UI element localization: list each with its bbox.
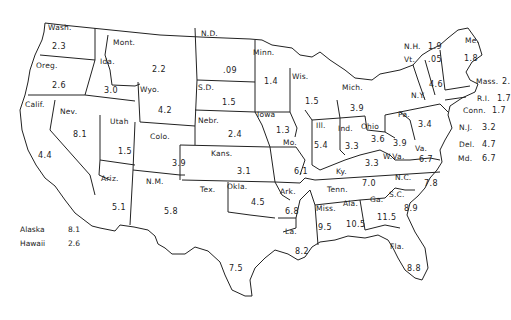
state-label: Tex.	[200, 186, 215, 194]
state-value: 6.8	[285, 208, 299, 216]
state-label: Calif.	[25, 101, 45, 109]
state-label: Wyo.	[140, 86, 159, 94]
state-label: Ark.	[280, 188, 296, 196]
state-label: Ariz.	[101, 175, 119, 183]
state-label: S.C.	[389, 191, 405, 199]
state-label: Wis.	[292, 73, 308, 81]
state-value: 3.2	[482, 124, 496, 132]
state-value: 1.9	[428, 43, 442, 51]
state-label: N.D.	[201, 30, 218, 38]
state-label: Wash.	[48, 24, 72, 32]
state-label: Ill.	[316, 122, 326, 130]
state-value: 3.3	[345, 143, 359, 151]
state-value: 2.	[502, 78, 510, 86]
state-label: Ohio	[361, 123, 379, 131]
state-label: Oreg.	[36, 62, 58, 70]
state-value: 1.8	[464, 55, 478, 63]
state-value: 9.5	[318, 224, 332, 232]
state-value: .09	[223, 67, 237, 75]
state-label: Colo.	[150, 133, 170, 141]
state-value: 3.1	[237, 168, 251, 176]
state-label: Okla.	[227, 183, 247, 191]
state-value: 10.5	[346, 221, 365, 229]
state-label: Mo.	[283, 139, 297, 147]
state-value: 4.5	[251, 199, 265, 207]
state-label: Utah	[110, 118, 129, 126]
state-value: 3.3	[365, 160, 379, 168]
state-label: Kans.	[211, 150, 232, 158]
state-value: 5.4	[314, 142, 328, 150]
state-value: 7.0	[362, 180, 376, 188]
legend-value: 2.6	[68, 239, 80, 248]
state-label: Md.	[458, 155, 472, 163]
state-value: 1.5	[222, 99, 236, 107]
state-label: N.M.	[146, 178, 164, 186]
state-value: 2.2	[152, 66, 166, 74]
state-value: 11.5	[377, 214, 396, 222]
state-label: Fla.	[390, 243, 404, 251]
state-label: Vt.	[404, 56, 415, 64]
state-value: 3.9	[350, 105, 364, 113]
state-value: 2.6	[52, 82, 66, 90]
state-value: 1.5	[305, 98, 319, 106]
state-value: 7.8	[424, 180, 438, 188]
state-label: Mont.	[113, 39, 135, 47]
state-label: Iowa	[257, 111, 275, 119]
state-label: W.Va.	[383, 153, 404, 161]
state-value: 1.3	[276, 127, 290, 135]
state-label: Del.	[459, 141, 475, 149]
state-value: 5.1	[112, 204, 126, 212]
state-value: 4.6	[429, 81, 443, 89]
state-label: La.	[285, 228, 297, 236]
legend-row-hawaii: Hawaii 2.6	[20, 239, 80, 248]
state-value: 2.4	[228, 131, 242, 139]
state-value: 2.3	[52, 43, 66, 51]
state-label: N.Y.	[411, 92, 425, 100]
state-label: Va.	[415, 145, 427, 153]
state-label: Ala.	[343, 200, 358, 208]
state-label: Nebr.	[198, 117, 219, 125]
legend-value: 8.1	[68, 225, 80, 234]
legend: Alaska 8.1 Hawaii 2.6	[20, 225, 80, 253]
state-label: Ida.	[100, 58, 115, 66]
state-value: 6.7	[419, 156, 433, 164]
state-label: Mich.	[342, 84, 363, 92]
state-label: Nev.	[60, 108, 77, 116]
state-value: 6.1	[294, 168, 308, 176]
state-value: 6.7	[482, 155, 496, 163]
legend-label: Alaska	[20, 225, 54, 234]
state-value: .05	[428, 56, 442, 64]
state-label: N.C.	[395, 174, 411, 182]
state-label: S.D.	[198, 84, 214, 92]
state-label: Conn.	[463, 107, 486, 115]
state-label: Ky.	[336, 168, 347, 176]
state-value: 8.2	[295, 248, 309, 256]
state-value: 4.2	[158, 107, 172, 115]
state-value: 1.4	[264, 78, 278, 86]
state-label: N.H.	[404, 43, 421, 51]
state-value: 3.0	[104, 87, 118, 95]
state-value: 1.7	[492, 107, 506, 115]
state-value: 1.7	[497, 95, 511, 103]
state-label: Mass.	[476, 78, 498, 86]
state-label: R.I.	[477, 95, 490, 103]
state-value: 4.4	[38, 152, 52, 160]
state-value: 8.8	[407, 265, 421, 273]
state-value: 5.8	[164, 208, 178, 216]
state-value: 3.9	[393, 140, 407, 148]
state-value: 3.4	[418, 121, 432, 129]
state-value: 8.9	[404, 205, 418, 213]
state-label: Ga.	[370, 196, 383, 204]
state-label: Miss.	[316, 205, 336, 213]
state-value: 1.5	[118, 148, 132, 156]
state-label: Ind.	[338, 125, 353, 133]
state-label: N.J.	[459, 124, 472, 132]
state-value: 3.6	[371, 136, 385, 144]
state-label: Me.	[465, 37, 479, 45]
state-value: 7.5	[229, 265, 243, 273]
state-value: 4.7	[482, 141, 496, 149]
state-label: Minn.	[253, 49, 274, 57]
legend-row-alaska: Alaska 8.1	[20, 225, 80, 234]
state-value: 3.9	[172, 160, 186, 168]
state-value: 8.1	[73, 131, 87, 139]
